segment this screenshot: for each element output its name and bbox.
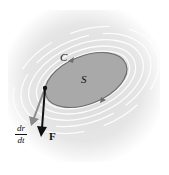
curve-label-c: C [60, 52, 67, 63]
stokes-diagram [0, 0, 169, 175]
velocity-label-denominator: dt [17, 136, 24, 145]
point-on-curve [43, 86, 47, 90]
velocity-label-dr-dt: dr dt [15, 124, 27, 145]
velocity-label-numerator: dr [17, 124, 25, 133]
surface-label-s: S [81, 74, 87, 85]
force-label-f: F [49, 131, 56, 142]
